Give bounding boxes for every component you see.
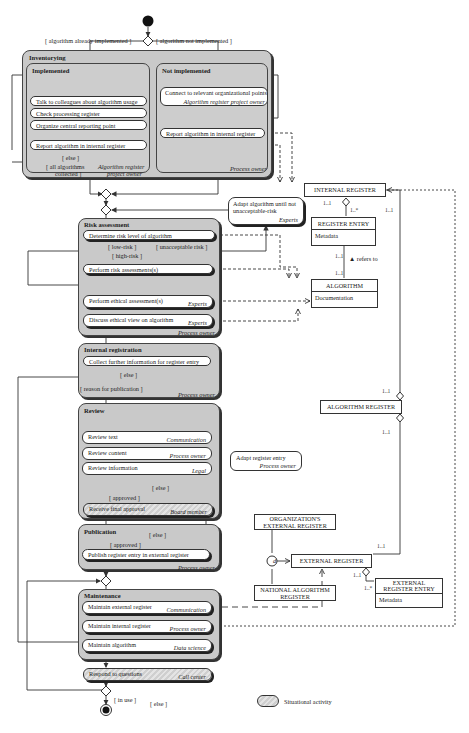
- activity-connect-organizational-points[interactable]: Connect to relevant organizational point…: [160, 87, 268, 106]
- not-implemented-region: [156, 63, 268, 173]
- activity-report-algorithm-implemented[interactable]: Report algorithm in internal register: [30, 140, 147, 150]
- activity-report-algorithm-not-implemented[interactable]: Report algorithm in internal register: [160, 128, 265, 138]
- role-not-implemented: Process owner: [230, 165, 267, 172]
- guard-else-registration: [ else ]: [120, 371, 137, 378]
- activity-respond-to-questions[interactable]: Respond to questionsCall center: [83, 668, 212, 681]
- mult-ar-bottom: 1..1: [382, 429, 390, 435]
- role-internal-registration: Process owner: [178, 391, 215, 398]
- activity-review-content[interactable]: Review contentProcess owner: [82, 447, 212, 460]
- implemented-title: Implemented: [32, 67, 69, 74]
- guard-all-collected-1: [ all algorithms: [46, 163, 84, 170]
- activity-check-processing-register[interactable]: Check processing register: [30, 108, 147, 118]
- activity-review-text[interactable]: Review textCommunication: [82, 431, 212, 444]
- guard-low-risk: [ low-risk ]: [108, 243, 136, 250]
- association-refers-to: ▲ refers to: [349, 255, 378, 262]
- activity-adapt-algorithm[interactable]: Adapt algorithm until not unacceptable-r…: [228, 197, 304, 225]
- activity-perform-ethical-assessment[interactable]: Perform ethical assessment(s)Experts: [83, 295, 213, 308]
- guard-reason-for-publication: [ reason for publication ]: [80, 385, 143, 392]
- mult-re-alg: 1..1: [335, 253, 343, 259]
- mult-ar-top: 1..1: [382, 388, 390, 394]
- guard-approved-review: [ approved ]: [109, 494, 140, 501]
- mult-er-entry-1: 1..1: [353, 572, 361, 578]
- role-publication: Process owner: [178, 564, 215, 571]
- activity-receive-final-approval[interactable]: Receive final approvalBoard member: [83, 503, 213, 516]
- class-national-algorithm-register[interactable]: NATIONAL ALGORITHMREGISTER: [254, 585, 336, 601]
- disjoint-marker: d: [273, 557, 276, 564]
- activity-adapt-register-entry[interactable]: Adapt register entry Process owner: [230, 451, 302, 471]
- risk-assessment-title: Risk assessment: [84, 221, 129, 228]
- guard-all-collected-2: collected ]: [55, 170, 81, 177]
- role-risk-assessment: Process owner: [178, 329, 215, 336]
- mult-re-many: 1..*: [350, 207, 358, 213]
- internal-registration-title: Internal registration: [84, 346, 142, 353]
- activity-collect-information[interactable]: Collect further information for register…: [83, 356, 211, 366]
- review-title: Review: [84, 407, 105, 414]
- activity-talk-to-colleagues[interactable]: Talk to colleagues about algorithm usage: [30, 96, 147, 106]
- activity-maintain-internal-register[interactable]: Maintain internal registerProcess owner: [82, 620, 212, 633]
- activity-publish-register-entry[interactable]: Publish register entry in external regis…: [82, 549, 210, 560]
- role-implemented-1: Algorithm register: [98, 163, 144, 170]
- class-internal-register[interactable]: INTERNAL REGISTER: [304, 183, 386, 197]
- legend-situational-swatch: [257, 695, 279, 707]
- class-register-entry[interactable]: REGISTER ENTRYMetadata: [311, 217, 376, 246]
- guard-in-use: [ in use ]: [114, 696, 136, 703]
- guard-else-publication: [ else ]: [149, 531, 166, 538]
- class-algorithm-register[interactable]: ALGORITHM REGISTER: [320, 400, 402, 414]
- inventorying-title: Inventorying: [29, 54, 66, 61]
- legend-situational-label: Situational activity: [284, 698, 332, 705]
- mult-er-right: 1..1: [377, 543, 385, 549]
- mult-alg-re: 1..1: [335, 270, 343, 276]
- guard-high-risk: [ high-risk ]: [112, 252, 142, 259]
- guard-already-implemented: [ algorithm already implemented ]: [45, 37, 131, 44]
- not-implemented-title: Not implemented: [162, 67, 211, 74]
- mult-ir-agg: 1..1: [323, 200, 331, 206]
- activity-review-information[interactable]: Review informationLegal: [82, 462, 212, 475]
- mult-er-entry-many: 1..*: [364, 585, 372, 591]
- activity-organize-reporting-point[interactable]: Organize central reporting point: [30, 120, 147, 130]
- guard-else-end: [ else ]: [150, 700, 167, 707]
- activity-determine-risk-level[interactable]: Determine risk level of algorithm: [83, 230, 215, 240]
- activity-maintain-algorithm[interactable]: Maintain algorithmData science: [82, 639, 212, 652]
- mult-ir-right: 1..1: [385, 207, 393, 213]
- guard-approved-publication: [ approved ]: [110, 541, 141, 548]
- activity-discuss-ethical-view[interactable]: Discuss ethical view on algorithmExperts: [83, 314, 213, 327]
- class-organizations-external-register[interactable]: ORGANIZATION'SEXTERNAL REGISTER: [254, 514, 336, 530]
- class-algorithm[interactable]: ALGORITHMDocumentation: [311, 279, 378, 308]
- guard-else-inventory: [ else ]: [62, 154, 79, 161]
- guard-not-implemented: [ algorithm not implemented ]: [156, 37, 232, 44]
- guard-unacceptable-risk: [ unacceptable risk ]: [156, 243, 207, 250]
- review-region: [78, 403, 220, 519]
- maintenance-title: Maintenance: [84, 592, 121, 599]
- implemented-region: [26, 63, 150, 173]
- class-external-register[interactable]: EXTERNAL REGISTER: [291, 554, 372, 568]
- activity-perform-risk-assessments[interactable]: Perform risk assessments(s): [83, 264, 213, 274]
- publication-title: Publication: [84, 528, 116, 535]
- class-external-register-entry[interactable]: EXTERNALREGISTER ENTRYMetadata: [375, 578, 443, 608]
- role-implemented-2: project owner: [107, 170, 142, 177]
- guard-else-review: [ else ]: [152, 484, 169, 491]
- activity-maintain-external-register[interactable]: Maintain external registerCommunication: [82, 601, 212, 614]
